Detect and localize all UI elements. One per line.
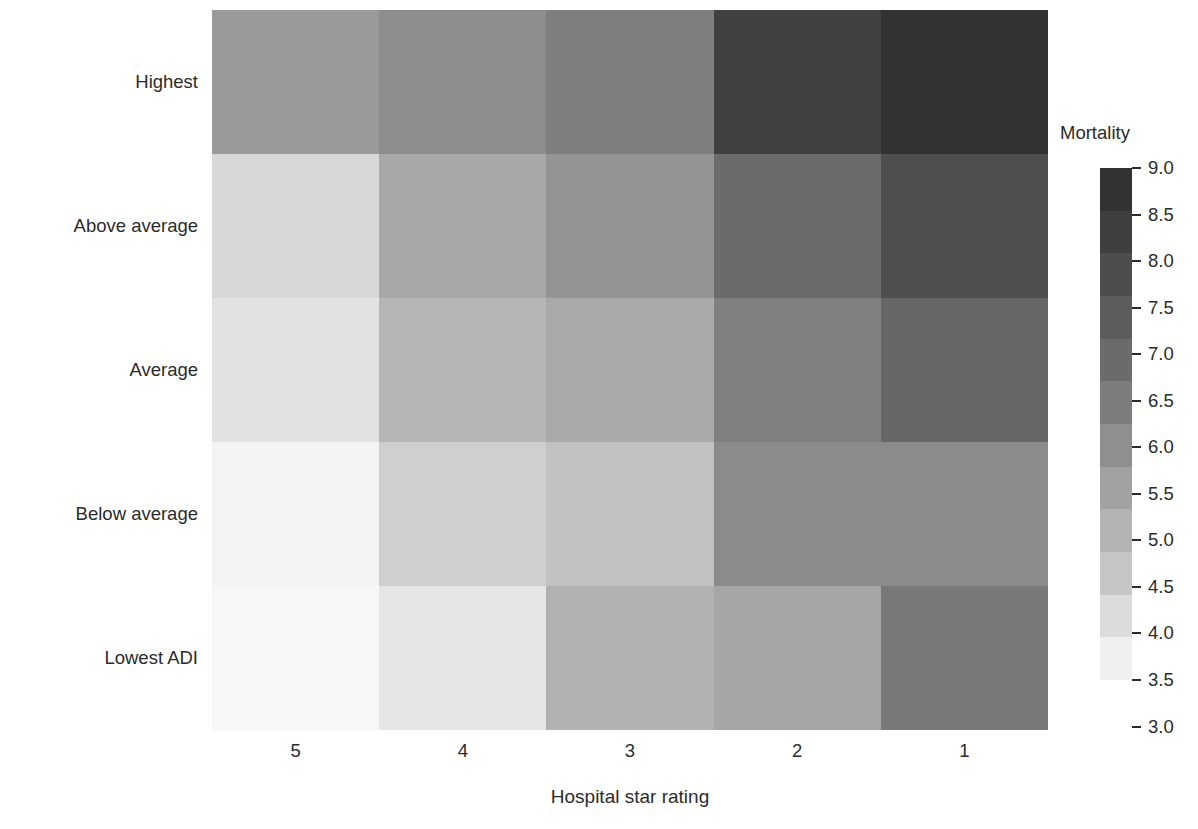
heatmap-cell [212, 442, 379, 586]
heatmap-cell [714, 154, 881, 298]
colorbar-tick-text: 7.5 [1148, 297, 1174, 319]
heatmap-cell [546, 298, 713, 442]
heatmap-cell [714, 298, 881, 442]
colorbar-tick-text: 9.0 [1148, 157, 1174, 179]
colorbar-tick-mark [1132, 214, 1141, 216]
colorbar-tick-text: 8.5 [1148, 204, 1174, 226]
colorbar-tick: 7.5 [1132, 297, 1174, 319]
colorbar-tick-text: 4.0 [1148, 622, 1174, 644]
colorbar-tick: 3.5 [1132, 669, 1174, 691]
colorbar-tick-mark [1132, 307, 1141, 309]
colorbar-tick-text: 4.5 [1148, 576, 1174, 598]
colorbar-tick: 8.0 [1132, 250, 1174, 272]
heatmap-cell [714, 586, 881, 730]
colorbar-tick: 4.5 [1132, 576, 1174, 598]
colorbar-tick-mark [1132, 726, 1141, 728]
colorbar-tick-text: 3.5 [1148, 669, 1174, 691]
heatmap-figure: Neighborhood deprivation HighestAbove av… [0, 0, 1198, 829]
colorbar-tick-mark [1132, 260, 1141, 262]
colorbar-tick-text: 6.0 [1148, 436, 1174, 458]
x-axis-tick-label: 5 [212, 740, 379, 770]
colorbar-tick-mark [1132, 586, 1141, 588]
heatmap-cell [379, 586, 546, 730]
colorbar-tick-mark [1132, 353, 1141, 355]
heatmap-cell [546, 442, 713, 586]
colorbar-tick: 3.0 [1132, 716, 1174, 738]
heatmap-cell [881, 442, 1048, 586]
colorbar-title: Mortality [1060, 122, 1130, 144]
colorbar-tick: 9.0 [1132, 157, 1174, 179]
colorbar-tick-text: 6.5 [1148, 390, 1174, 412]
heatmap-cell [881, 154, 1048, 298]
heatmap-cell [546, 154, 713, 298]
colorbar-tick-mark [1132, 679, 1141, 681]
colorbar-tick: 5.5 [1132, 483, 1174, 505]
colorbar-tick: 7.0 [1132, 343, 1174, 365]
x-axis-tick-labels: 54321 [212, 740, 1048, 770]
x-axis-tick-label: 1 [881, 740, 1048, 770]
heatmap-cell [881, 586, 1048, 730]
x-axis-tick-label: 2 [714, 740, 881, 770]
colorbar-tick: 8.5 [1132, 204, 1174, 226]
x-axis-tick-label: 3 [546, 740, 713, 770]
colorbar-tick-mark [1132, 446, 1141, 448]
heatmap-cell [212, 10, 379, 154]
heatmap-cell [379, 298, 546, 442]
colorbar-tick-mark [1132, 493, 1141, 495]
colorbar-tick-text: 3.0 [1148, 716, 1174, 738]
y-axis-tick-label: Average [8, 359, 198, 381]
heatmap-cell [881, 10, 1048, 154]
colorbar-tick-labels: 9.08.58.07.57.06.56.05.55.04.54.03.53.0 [1100, 168, 1198, 680]
y-axis-tick-labels: HighestAbove averageAverageBelow average… [0, 0, 198, 829]
colorbar-tick: 6.0 [1132, 436, 1174, 458]
colorbar-tick-text: 8.0 [1148, 250, 1174, 272]
heatmap-cell [212, 154, 379, 298]
x-axis-title: Hospital star rating [212, 786, 1048, 808]
colorbar-tick: 6.5 [1132, 390, 1174, 412]
heatmap-grid [212, 10, 1048, 730]
heatmap-cell [881, 298, 1048, 442]
heatmap-cell [212, 586, 379, 730]
colorbar-tick: 5.0 [1132, 529, 1174, 551]
colorbar-tick-mark [1132, 167, 1141, 169]
y-axis-tick-label: Highest [8, 71, 198, 93]
colorbar-tick-mark [1132, 400, 1141, 402]
heatmap-cell [546, 586, 713, 730]
heatmap-cell [714, 10, 881, 154]
colorbar-tick-mark [1132, 632, 1141, 634]
heatmap-cell [379, 10, 546, 154]
heatmap-cell [379, 442, 546, 586]
x-axis-tick-label: 4 [379, 740, 546, 770]
heatmap-cell [212, 298, 379, 442]
heatmap-cell [714, 442, 881, 586]
y-axis-tick-label: Above average [8, 215, 198, 237]
colorbar-tick-text: 7.0 [1148, 343, 1174, 365]
colorbar-tick-text: 5.0 [1148, 529, 1174, 551]
colorbar-tick: 4.0 [1132, 622, 1174, 644]
colorbar-tick-text: 5.5 [1148, 483, 1174, 505]
colorbar-tick-mark [1132, 539, 1141, 541]
y-axis-tick-label: Lowest ADI [8, 647, 198, 669]
heatmap-cell [379, 154, 546, 298]
heatmap-cell [546, 10, 713, 154]
y-axis-tick-label: Below average [8, 503, 198, 525]
